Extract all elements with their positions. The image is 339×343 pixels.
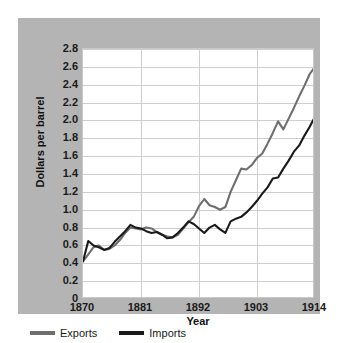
chart-frame: 2.82.62.42.22.01.81.61.41.21.00.80.60.40… bbox=[18, 18, 320, 314]
series-line-exports bbox=[83, 67, 314, 262]
series-line-imports bbox=[83, 117, 314, 262]
y-tick-label: 2.8 bbox=[34, 43, 78, 54]
x-tick-label: 1881 bbox=[110, 301, 170, 313]
y-tick-label: 1.0 bbox=[34, 204, 78, 215]
series-lines bbox=[83, 49, 314, 298]
chart-legend: ExportsImports bbox=[30, 327, 186, 339]
x-tick-label: 1892 bbox=[168, 301, 228, 313]
x-axis-label: Year bbox=[82, 315, 314, 327]
legend-swatch-icon bbox=[30, 331, 55, 335]
x-tick-label: 1903 bbox=[226, 301, 286, 313]
y-tick-label: 0.6 bbox=[34, 239, 78, 250]
y-tick-label: 2.6 bbox=[34, 61, 78, 72]
plot-area bbox=[82, 48, 314, 298]
x-tick-label: 1870 bbox=[52, 301, 112, 313]
y-tick-label: 0.2 bbox=[34, 275, 78, 286]
y-tick-label: 0.4 bbox=[34, 257, 78, 268]
legend-label: Exports bbox=[60, 327, 97, 339]
legend-label: Imports bbox=[149, 327, 186, 339]
chart-figure: 2.82.62.42.22.01.81.61.41.21.00.80.60.40… bbox=[0, 0, 339, 343]
y-tick-label: 0.8 bbox=[34, 222, 78, 233]
y-axis-label: Dollars per barrel bbox=[34, 82, 46, 202]
legend-item-exports[interactable]: Exports bbox=[30, 327, 97, 339]
x-tick-label: 1914 bbox=[284, 301, 339, 313]
legend-item-imports[interactable]: Imports bbox=[119, 327, 186, 339]
legend-swatch-icon bbox=[119, 331, 144, 335]
